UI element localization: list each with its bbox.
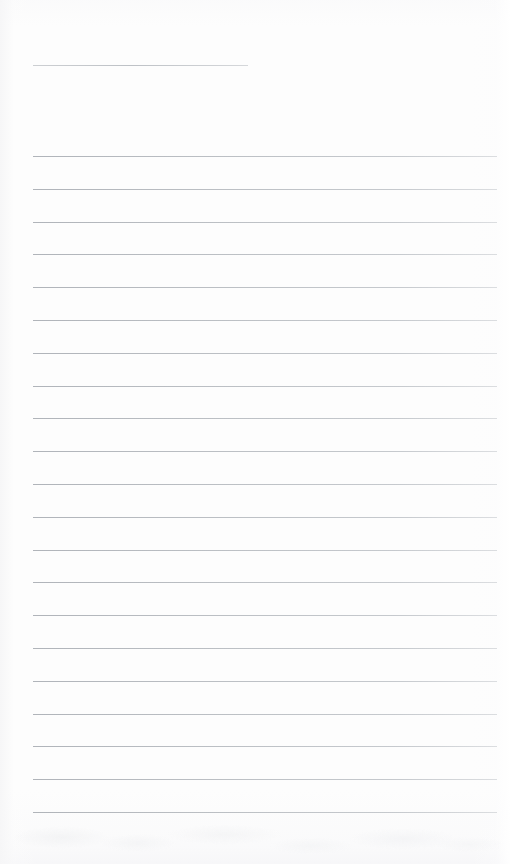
rule-line-13 — [33, 550, 497, 551]
rule-line-7 — [33, 353, 497, 354]
rule-line-1 — [33, 156, 497, 157]
rule-line-9 — [33, 418, 497, 419]
paper-tone-overlay — [0, 0, 510, 864]
rule-line-21 — [33, 812, 497, 813]
rule-line-10 — [33, 451, 497, 452]
lined-page — [0, 0, 510, 864]
rule-line-4 — [33, 254, 497, 255]
page-body-text — [0, 0, 1, 1]
rule-line-16 — [33, 648, 497, 649]
rule-line-3 — [33, 222, 497, 223]
rule-line-17 — [33, 681, 497, 682]
rule-line-5 — [33, 287, 497, 288]
header-rule — [33, 65, 248, 66]
rule-line-15 — [33, 615, 497, 616]
rule-line-8 — [33, 386, 497, 387]
rule-line-14 — [33, 582, 497, 583]
page-title — [0, 0, 1, 1]
rule-line-18 — [33, 714, 497, 715]
rule-line-12 — [33, 517, 497, 518]
rule-line-11 — [33, 484, 497, 485]
rule-line-19 — [33, 746, 497, 747]
rule-line-6 — [33, 320, 497, 321]
paper-texture-bottom — [0, 794, 510, 864]
rule-line-2 — [33, 189, 497, 190]
rule-line-20 — [33, 779, 497, 780]
